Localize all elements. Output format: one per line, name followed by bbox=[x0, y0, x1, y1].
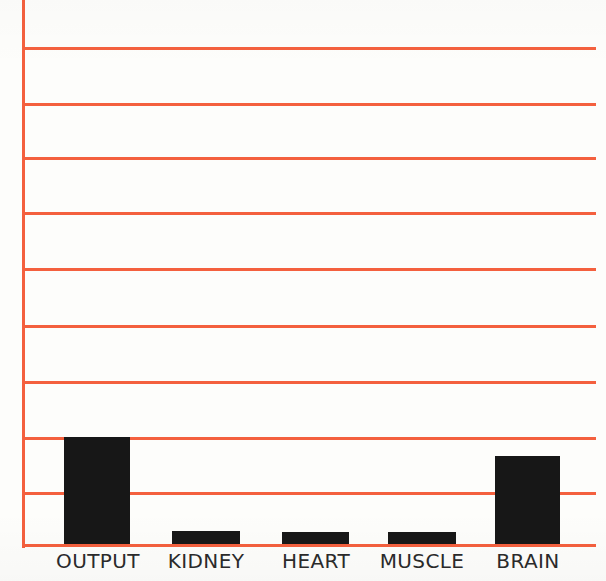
bar-brain bbox=[495, 456, 560, 545]
gridline-5 bbox=[22, 325, 596, 328]
y-axis-line bbox=[22, 0, 25, 548]
gridline-1 bbox=[22, 103, 596, 106]
bar-kidney bbox=[172, 531, 240, 545]
x-axis-label-brain: BRAIN bbox=[458, 549, 598, 573]
bar-output bbox=[64, 437, 130, 545]
gridline-4 bbox=[22, 268, 596, 271]
gridline-2 bbox=[22, 157, 596, 160]
x-axis-baseline bbox=[22, 544, 596, 547]
plot-area bbox=[22, 0, 596, 547]
bar-chart-figure: OUTPUTKIDNEYHEARTMUSCLEBRAIN bbox=[0, 0, 606, 581]
gridline-3 bbox=[22, 212, 596, 215]
gridline-0 bbox=[22, 47, 596, 50]
gridline-6 bbox=[22, 381, 596, 384]
